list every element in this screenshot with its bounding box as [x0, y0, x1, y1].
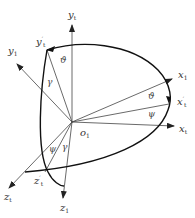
label-x-t: xt — [179, 124, 187, 135]
label-origin: o1 — [80, 128, 90, 139]
arc-inner — [40, 50, 64, 186]
angle-theta-right: ϑ — [148, 92, 154, 101]
label-y-vertical: yt — [68, 10, 76, 21]
angle-theta-top: ϑ — [60, 56, 66, 65]
angle-gamma-bottom: γ — [62, 143, 67, 152]
rotation-diagram — [0, 0, 195, 218]
label-x-body: x1 — [178, 70, 187, 81]
label-z-body: z1 — [60, 203, 69, 214]
label-z-prime: z′t — [34, 175, 43, 187]
label-y-prime: y′t — [36, 36, 45, 48]
angle-gamma-top: γ — [47, 78, 52, 87]
label-z-t: zt — [4, 192, 12, 203]
angle-psi-right: ψ — [148, 110, 155, 119]
label-x-prime: x′t — [177, 96, 186, 108]
angle-psi-bottom: ψ — [49, 145, 56, 154]
axis-z-body — [63, 122, 72, 198]
axis-x-body — [72, 79, 172, 122]
label-y-body: y1 — [8, 46, 17, 57]
axis-y-body — [17, 64, 72, 122]
